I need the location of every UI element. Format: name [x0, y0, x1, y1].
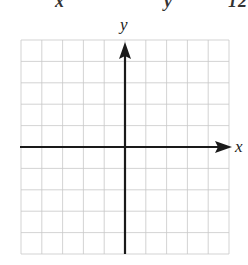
- y-axis-label: y: [118, 15, 128, 34]
- x-axis-label: x: [234, 137, 243, 156]
- coordinate-plane: x y: [0, 0, 248, 265]
